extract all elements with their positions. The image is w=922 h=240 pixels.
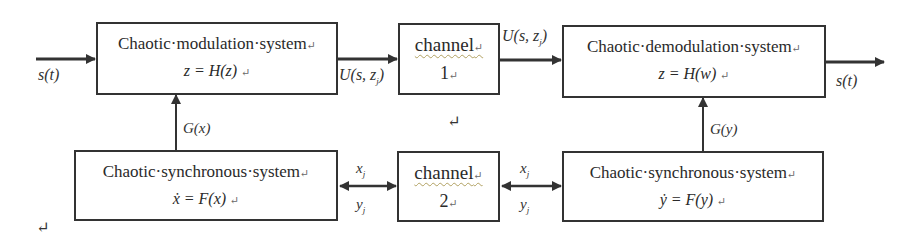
demodulation-title: Chaotic·demodulation·system [587,37,792,56]
channel2-block: channel↵ 2↵ [397,151,500,222]
paragraph-mark: ↵ [474,41,483,53]
input-signal-label: s(t) [38,66,59,84]
channel2-title: channel [414,162,473,183]
channel1-block: channel↵ 1↵ [398,23,500,95]
modulated-signal-label: U(s, zj) [339,66,384,86]
channel1-title: channel [415,34,474,55]
sync-left-block: Chaotic·synchronous·system↵ ẋ = F(x) ↵ [74,150,338,221]
paragraph-mark: ↵ [449,69,458,81]
modulation-equation: z = H(z) [184,62,237,79]
sync-right-block: Chaotic·synchronous·system↵ ẏ = F(y) ↵ [562,151,824,222]
sync-left-title: Chaotic·synchronous·system [103,162,300,181]
modulation-block: Chaotic·modulation·system↵ z = H(z) ↵ [96,22,338,95]
gx-label: G(x) [183,120,210,137]
paragraph-mark: ↵ [307,39,316,51]
gy-label: G(y) [710,121,737,138]
y-right-label: yj [520,196,529,215]
sync-right-title: Chaotic·synchronous·system [590,163,787,182]
demodulation-block: Chaotic·demodulation·system↵ z = H(w) ↵ [562,25,826,98]
paragraph-mark: ↵ [787,168,796,180]
modulation-title: Chaotic·modulation·system [118,34,307,53]
paragraph-mark: ↵ [230,194,239,206]
output-signal-label: s(t) [836,72,857,90]
x-left-label: xj [356,160,365,179]
y-left-label: yj [356,196,365,215]
channel1-output-label: U(s, zj) [502,27,547,47]
x-right-label: xj [520,160,529,179]
sync-right-equation: ẏ = F(y) [660,191,713,208]
demodulation-equation: z = H(w) [658,65,716,82]
channel1-number: 1 [440,63,449,83]
sync-left-equation: ẋ = F(x) [173,190,226,207]
paragraph-mark: ↵ [473,169,482,181]
paragraph-mark: ↵ [792,42,801,54]
paragraph-mark: ↵ [300,167,309,179]
paragraph-mark: ↵ [448,197,457,209]
stray-paragraph-mark: ↵ [447,112,460,131]
paragraph-mark: ↵ [720,69,729,81]
paragraph-mark: ↵ [241,66,250,78]
paragraph-mark: ↵ [717,195,726,207]
stray-paragraph-mark: ↵ [36,218,49,237]
